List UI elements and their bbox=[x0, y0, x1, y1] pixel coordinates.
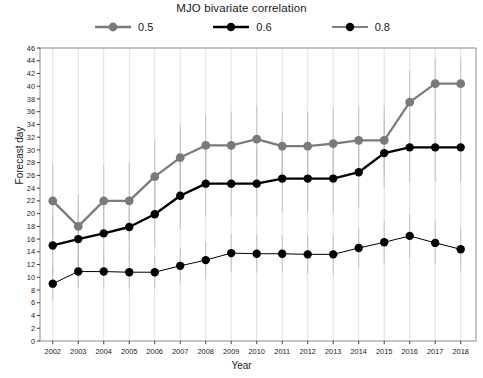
plot-border bbox=[40, 48, 476, 341]
data-point bbox=[100, 229, 108, 237]
data-point bbox=[380, 136, 389, 145]
x-tick-label: 2002 bbox=[45, 347, 61, 356]
data-point bbox=[431, 239, 439, 247]
data-point bbox=[278, 142, 287, 151]
data-point bbox=[202, 256, 210, 264]
data-point bbox=[380, 238, 388, 246]
data-point bbox=[406, 143, 414, 151]
data-point bbox=[150, 172, 159, 181]
y-tick-label: 12 bbox=[27, 260, 35, 269]
data-point bbox=[329, 250, 337, 258]
y-tick-label: 42 bbox=[27, 69, 35, 78]
data-point bbox=[176, 153, 185, 162]
data-point bbox=[252, 135, 261, 144]
x-tick-label: 2013 bbox=[325, 347, 341, 356]
x-tick-label: 2008 bbox=[198, 347, 214, 356]
data-point bbox=[125, 223, 133, 231]
data-point bbox=[151, 268, 159, 276]
data-point bbox=[125, 268, 133, 276]
data-point bbox=[431, 143, 439, 151]
data-point bbox=[176, 192, 184, 200]
y-tick-label: 0 bbox=[31, 337, 35, 346]
y-tick-label: 2 bbox=[31, 324, 35, 333]
data-point bbox=[278, 250, 286, 258]
data-point bbox=[227, 179, 235, 187]
x-tick-label: 2004 bbox=[96, 347, 112, 356]
data-point bbox=[329, 139, 338, 148]
data-point bbox=[406, 232, 414, 240]
chart-container: MJO bivariate correlation 0.5 0.6 0.8 Fo… bbox=[0, 0, 483, 378]
data-point bbox=[176, 262, 184, 270]
data-point bbox=[303, 142, 312, 151]
y-tick-label: 30 bbox=[27, 146, 35, 155]
y-tick-label: 10 bbox=[27, 273, 35, 282]
data-point bbox=[457, 143, 465, 151]
y-tick-label: 28 bbox=[27, 158, 35, 167]
data-point bbox=[457, 245, 465, 253]
data-point bbox=[125, 196, 134, 205]
data-point bbox=[227, 141, 236, 150]
y-tick-label: 46 bbox=[27, 44, 35, 53]
data-point bbox=[456, 79, 465, 88]
y-tick-label: 14 bbox=[27, 247, 35, 256]
data-point bbox=[380, 149, 388, 157]
x-tick-label: 2006 bbox=[147, 347, 163, 356]
x-tick-label: 2011 bbox=[274, 347, 290, 356]
x-tick-label: 2018 bbox=[452, 347, 468, 356]
data-point bbox=[74, 267, 82, 275]
x-axis-ticks: 2002200320042005200620072008200920102011… bbox=[45, 341, 469, 356]
x-tick-label: 2010 bbox=[249, 347, 265, 356]
data-point bbox=[49, 241, 57, 249]
data-point bbox=[227, 249, 235, 257]
data-point bbox=[74, 222, 83, 231]
x-tick-label: 2016 bbox=[401, 347, 417, 356]
data-point bbox=[100, 267, 108, 275]
y-tick-label: 22 bbox=[27, 196, 35, 205]
y-tick-label: 24 bbox=[27, 184, 35, 193]
data-point bbox=[355, 244, 363, 252]
data-point bbox=[354, 136, 363, 145]
x-tick-label: 2007 bbox=[172, 347, 188, 356]
y-tick-label: 34 bbox=[27, 120, 35, 129]
data-point bbox=[405, 98, 414, 107]
x-tick-label: 2014 bbox=[350, 347, 366, 356]
axis-frame bbox=[40, 48, 476, 341]
data-point bbox=[431, 79, 440, 88]
y-tick-label: 32 bbox=[27, 133, 35, 142]
x-tick-label: 2015 bbox=[376, 347, 392, 356]
data-point bbox=[253, 179, 261, 187]
x-tick-label: 2009 bbox=[223, 347, 239, 356]
y-tick-label: 38 bbox=[27, 95, 35, 104]
data-point bbox=[201, 141, 210, 150]
x-tick-label: 2012 bbox=[299, 347, 315, 356]
data-point bbox=[355, 168, 363, 176]
data-point bbox=[202, 179, 210, 187]
data-point bbox=[151, 210, 159, 218]
data-point bbox=[99, 196, 108, 205]
y-tick-label: 36 bbox=[27, 107, 35, 116]
y-tick-label: 40 bbox=[27, 82, 35, 91]
y-tick-label: 6 bbox=[31, 298, 35, 307]
y-tick-label: 20 bbox=[27, 209, 35, 218]
data-point bbox=[48, 196, 57, 205]
x-tick-label: 2003 bbox=[70, 347, 86, 356]
data-point bbox=[253, 250, 261, 258]
data-point bbox=[74, 235, 82, 243]
data-point bbox=[49, 279, 57, 287]
y-tick-label: 4 bbox=[31, 311, 35, 320]
data-point bbox=[278, 174, 286, 182]
y-axis-ticks: 0246810121416182022242628303234363840424… bbox=[27, 44, 40, 346]
y-tick-label: 18 bbox=[27, 222, 35, 231]
plot-area: 0246810121416182022242628303234363840424… bbox=[0, 0, 483, 378]
x-tick-label: 2017 bbox=[427, 347, 443, 356]
y-tick-label: 44 bbox=[27, 56, 35, 65]
y-tick-label: 26 bbox=[27, 171, 35, 180]
y-tick-label: 8 bbox=[31, 286, 35, 295]
x-tick-label: 2005 bbox=[121, 347, 137, 356]
data-point bbox=[304, 174, 312, 182]
y-tick-label: 16 bbox=[27, 235, 35, 244]
data-point bbox=[329, 174, 337, 182]
data-point bbox=[304, 250, 312, 258]
